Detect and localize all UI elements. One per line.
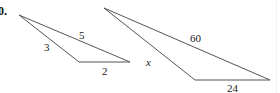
large-side-label-top: 60 bbox=[190, 32, 202, 44]
large-triangle bbox=[104, 8, 270, 80]
small-side-label-bottom: 2 bbox=[102, 65, 108, 77]
similar-triangles-figure: 3 5 2 60 x 24 bbox=[0, 0, 280, 93]
small-side-label-top: 5 bbox=[79, 29, 85, 41]
small-triangle bbox=[19, 15, 130, 62]
small-side-label-left: 3 bbox=[44, 41, 50, 53]
large-side-label-bottom: 24 bbox=[227, 82, 239, 93]
page-edge-divider bbox=[276, 0, 277, 93]
large-side-label-left-x: x bbox=[145, 56, 151, 68]
